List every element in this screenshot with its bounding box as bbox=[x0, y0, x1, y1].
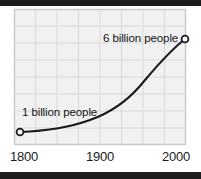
end-point-marker bbox=[182, 36, 189, 43]
annotation-end-label: 6 billion people bbox=[103, 32, 178, 44]
line-chart-svg bbox=[0, 6, 201, 172]
x-axis-tick-2000: 2000 bbox=[162, 149, 190, 164]
annotation-start-label: 1 billion people bbox=[22, 106, 97, 118]
chart-figure: 1 billion people 6 billion people 1800 1… bbox=[0, 0, 201, 179]
x-axis-tick-1800: 1800 bbox=[10, 149, 38, 164]
start-point-marker bbox=[17, 129, 24, 136]
bottom-border-band bbox=[0, 172, 201, 179]
plot-area-wrapper: 1 billion people 6 billion people 1800 1… bbox=[0, 6, 201, 172]
x-axis-tick-1900: 1900 bbox=[86, 149, 114, 164]
